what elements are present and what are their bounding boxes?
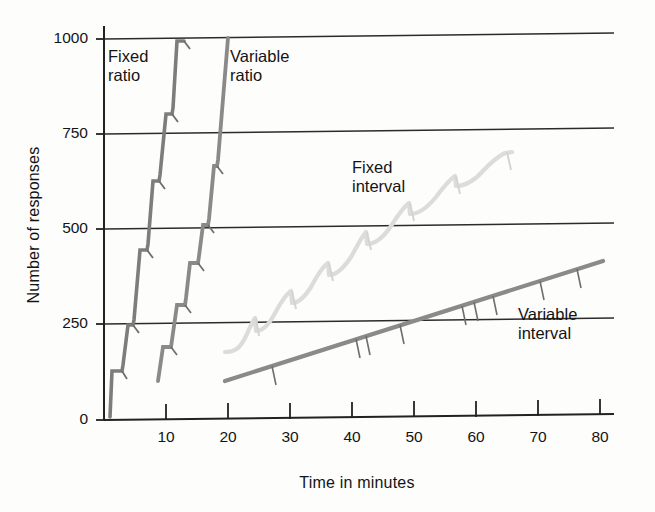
x-tick-label-60: 60	[459, 428, 493, 446]
series-label-variable-ratio: Variable ratio	[230, 47, 289, 86]
series-variable-ratio	[158, 38, 228, 381]
y-tick-label-250: 250	[42, 314, 88, 332]
axis-lines	[104, 26, 614, 420]
y-axis-ticks	[96, 39, 104, 420]
variable-ratio-curve	[158, 38, 228, 381]
chart-plot-area	[0, 0, 655, 512]
y-tick-label-500: 500	[42, 219, 88, 237]
cumulative-response-chart: 1000 750 500 250 0 10 20 30 40 50 60 70 …	[0, 0, 655, 512]
series-label-variable-interval-line2: interval	[518, 324, 577, 343]
x-tick-label-80: 80	[583, 428, 617, 446]
x-tick-label-20: 20	[211, 428, 245, 446]
fixed-ratio-reinforcement-marks	[122, 41, 190, 379]
gridline-1000	[104, 33, 614, 39]
series-label-fixed-interval-line2: interval	[352, 177, 405, 196]
x-tick-label-70: 70	[521, 428, 555, 446]
series-label-variable-ratio-line1: Variable	[230, 47, 289, 66]
x-tick-label-50: 50	[397, 428, 431, 446]
x-tick-label-10: 10	[149, 428, 183, 446]
y-axis-title: Number of responses	[25, 95, 43, 355]
x-axis-title: Time in minutes	[222, 474, 492, 492]
series-label-fixed-ratio: Fixed ratio	[108, 47, 148, 86]
x-tick-label-40: 40	[335, 428, 369, 446]
gridline-750	[104, 128, 614, 134]
y-tick-label-0: 0	[42, 410, 88, 428]
y-tick-label-750: 750	[42, 124, 88, 142]
series-label-variable-ratio-line2: ratio	[230, 66, 289, 85]
series-label-variable-interval-line1: Variable	[518, 305, 577, 324]
series-label-fixed-ratio-line1: Fixed	[108, 47, 148, 66]
y-tick-label-1000: 1000	[42, 29, 88, 47]
series-label-fixed-ratio-line2: ratio	[108, 66, 148, 85]
series-label-fixed-interval-line1: Fixed	[352, 158, 405, 177]
gridline-500	[104, 223, 614, 229]
x-tick-label-30: 30	[273, 428, 307, 446]
series-label-fixed-interval: Fixed interval	[352, 158, 405, 197]
series-label-variable-interval: Variable interval	[518, 305, 577, 344]
